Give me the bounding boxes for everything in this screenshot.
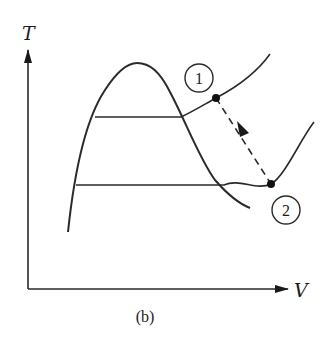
svg-text:1: 1 bbox=[195, 70, 203, 87]
state-label-1: 1 bbox=[185, 64, 213, 92]
process-arrow bbox=[216, 98, 271, 184]
lower-isotherm bbox=[76, 122, 314, 186]
state-point-2 bbox=[267, 180, 275, 188]
arrowhead-icon bbox=[237, 121, 249, 137]
saturation-dome bbox=[68, 63, 250, 232]
svg-text:2: 2 bbox=[282, 202, 290, 219]
tv-diagram: T V 1 2 (b) bbox=[0, 0, 330, 340]
y-axis-label: T bbox=[22, 22, 36, 44]
state-label-2: 2 bbox=[272, 196, 300, 224]
state-point-1 bbox=[212, 94, 220, 102]
upper-isotherm bbox=[95, 54, 270, 117]
figure-caption: (b) bbox=[136, 308, 155, 326]
x-axis-label: V bbox=[294, 279, 310, 301]
axes: T V bbox=[22, 22, 310, 301]
